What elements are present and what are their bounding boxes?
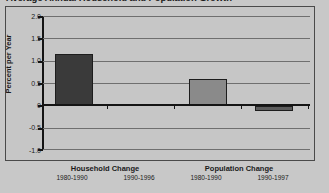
x-axis-tick: [308, 106, 309, 109]
gridline: [43, 149, 310, 150]
group-label-household-change: Household Change: [44, 165, 166, 173]
y-tick-label: -1.0: [7, 147, 41, 154]
y-tick-label: -0.5: [7, 124, 41, 131]
bar-population-1980-1990: [189, 79, 227, 106]
zero-axis-line: [43, 104, 310, 106]
gridline: [43, 128, 310, 129]
y-tick-label: 2.0: [7, 13, 41, 20]
y-tick-label-wrap: 0: [5, 102, 41, 109]
y-axis-title: Percent per Year: [5, 26, 13, 102]
bar-household-1980-1990: [55, 54, 93, 105]
chart-title: Average Annual Household and Population …: [6, 0, 326, 3]
period-label-household-1990-1996: 1990-1996: [111, 174, 167, 181]
x-axis-tick: [174, 106, 175, 109]
chart-figure: Average Annual Household and Population …: [0, 0, 329, 193]
group-label-population-change: Population Change: [178, 165, 300, 173]
gridline: [43, 16, 310, 17]
bar-population-1990-1997: [255, 106, 293, 111]
x-axis-tick: [241, 106, 242, 109]
plot-area: [43, 16, 310, 150]
y-tick-label-wrap: -1.0: [5, 147, 41, 154]
x-axis-tick: [107, 106, 108, 109]
period-label-population-1990-1997: 1990-1997: [245, 174, 301, 181]
gridline: [43, 38, 310, 39]
y-tick-label: 0: [7, 102, 41, 109]
period-label-population-1980-1990: 1980-1990: [178, 174, 234, 181]
y-tick-label-wrap: 2.0: [5, 13, 41, 20]
period-label-household-1980-1990: 1980-1990: [44, 174, 100, 181]
y-tick-label-wrap: -0.5: [5, 124, 41, 131]
